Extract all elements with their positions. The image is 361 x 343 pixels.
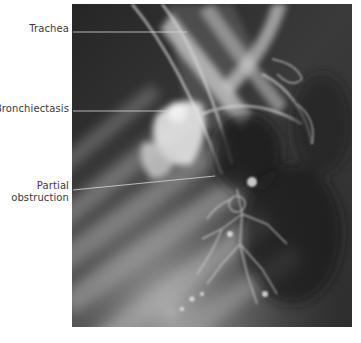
partial-obstruction-label: Partial obstruction bbox=[11, 180, 69, 204]
partial-obstruction-label-line2: obstruction bbox=[11, 192, 69, 204]
bronchiectasis-label: Bronchiectasis bbox=[0, 103, 69, 115]
trachea-label: Trachea bbox=[29, 23, 69, 35]
annotated-radiograph-figure: Trachea Bronchiectasis Partial obstructi… bbox=[0, 0, 361, 343]
chest-xray-image bbox=[72, 4, 352, 327]
partial-obstruction-label-line1: Partial bbox=[11, 180, 69, 192]
